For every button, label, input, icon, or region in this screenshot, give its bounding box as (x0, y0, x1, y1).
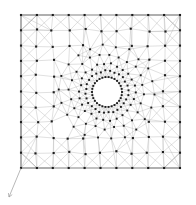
mesh-node (34, 152, 36, 154)
mesh-node (127, 85, 129, 87)
mesh-node (52, 14, 54, 16)
mesh-node (125, 98, 127, 100)
mesh-node (78, 116, 80, 118)
mesh-node (104, 69, 106, 71)
mesh-node (138, 58, 140, 60)
mesh-node (148, 59, 150, 61)
mesh-node (20, 14, 22, 16)
mesh-node (68, 89, 70, 91)
mesh-node (99, 54, 101, 56)
mesh-node (108, 76, 110, 78)
mesh-node (86, 83, 88, 85)
mesh-node (131, 119, 133, 121)
mesh-node (35, 92, 37, 94)
mesh-node (89, 48, 91, 50)
mesh-node (95, 73, 97, 75)
mesh-plot (0, 0, 196, 205)
mesh-node (102, 119, 104, 121)
mesh-node (69, 29, 71, 31)
mesh-node (76, 71, 78, 73)
mesh-node (179, 90, 181, 92)
mesh-node (150, 107, 152, 109)
mesh-node (20, 136, 22, 138)
mesh-node (96, 64, 98, 66)
mesh-node (82, 137, 84, 139)
mesh-node (115, 14, 117, 16)
mesh-node (102, 44, 104, 46)
mesh-node (53, 59, 55, 61)
mesh-node (52, 46, 54, 48)
mesh-node (99, 14, 101, 16)
mesh-node (122, 76, 124, 78)
mesh-node (92, 97, 94, 99)
mesh-node (162, 105, 164, 107)
mesh-node (111, 77, 113, 79)
mesh-node (104, 106, 106, 108)
mesh-node (53, 91, 55, 93)
mesh-node (71, 79, 73, 81)
mesh-node (154, 94, 156, 96)
mesh-node (53, 76, 55, 78)
mesh-node (104, 129, 106, 131)
mesh-node (88, 79, 90, 81)
mesh-node (94, 100, 96, 102)
mesh-node (101, 77, 103, 79)
mesh-node (78, 91, 80, 93)
mesh-node (135, 129, 137, 131)
mesh-node (96, 102, 98, 104)
mesh-node (68, 167, 70, 169)
mesh-node (86, 97, 88, 99)
mesh-node (179, 121, 181, 123)
mesh-node (148, 121, 150, 123)
mesh-node (144, 118, 146, 120)
mesh-node (53, 105, 55, 107)
mesh-node (162, 90, 164, 92)
mesh-node (95, 108, 97, 110)
mesh-node (120, 97, 122, 99)
mesh-node (70, 98, 72, 100)
mesh-node (20, 60, 22, 62)
mesh-node (179, 106, 181, 108)
mesh-node (164, 121, 166, 123)
mesh-node (164, 60, 166, 62)
mesh-node (84, 167, 86, 169)
mesh-node (121, 94, 123, 96)
mesh-node (163, 14, 165, 16)
mesh-node (141, 84, 143, 86)
mesh-node (113, 126, 115, 128)
mesh-node (131, 153, 133, 155)
mesh-node (77, 54, 79, 56)
mesh-node (73, 107, 75, 109)
mesh-node (108, 106, 110, 108)
mesh-node (20, 90, 22, 92)
mesh-node (179, 136, 181, 138)
mesh-node (51, 120, 53, 122)
mesh-node (20, 152, 22, 154)
mesh-node (81, 104, 83, 106)
mesh-node (20, 45, 22, 47)
mesh-node (109, 120, 111, 122)
mesh-node (118, 82, 120, 84)
mesh-node (179, 14, 181, 16)
mesh-node (99, 78, 101, 80)
mesh-node (114, 104, 116, 106)
mesh-node (114, 78, 116, 80)
figure-canvas (0, 0, 196, 205)
mesh-node (101, 105, 103, 107)
mesh-node (116, 109, 118, 111)
mesh-node (108, 111, 110, 113)
mesh-node (99, 104, 101, 106)
mesh-node (104, 76, 106, 78)
mesh-node (94, 82, 96, 84)
mesh-node (131, 14, 133, 16)
mesh-node (100, 71, 102, 73)
mesh-node (68, 151, 70, 153)
mesh-node (140, 102, 142, 104)
mesh-node (122, 114, 124, 116)
mesh-node (147, 45, 149, 47)
mesh-node (133, 98, 135, 100)
mesh-node (82, 44, 84, 46)
mesh-node (118, 100, 120, 102)
mesh-node (179, 75, 181, 77)
mesh-node (143, 93, 145, 95)
